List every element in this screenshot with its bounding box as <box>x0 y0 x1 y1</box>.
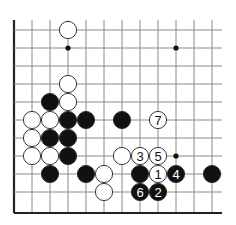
white-stone-3: 3 <box>131 147 148 164</box>
star-point-icon <box>173 153 178 158</box>
black-stone <box>203 165 220 182</box>
white-stone-7: 7 <box>149 111 166 128</box>
white-stone <box>95 165 112 182</box>
white-stone <box>113 147 130 164</box>
black-stone-2: 2 <box>149 183 166 200</box>
white-stone <box>41 111 58 128</box>
white-stone <box>59 75 76 92</box>
move-number-label: 3 <box>136 149 143 164</box>
star-point-icon <box>65 45 70 50</box>
black-stone <box>41 165 58 182</box>
black-stone <box>59 111 76 128</box>
white-stone <box>23 129 40 146</box>
white-stone <box>59 93 76 110</box>
move-number-label: 2 <box>154 185 161 200</box>
move-number-label: 4 <box>172 167 179 182</box>
black-stone <box>113 111 130 128</box>
black-stone <box>77 165 94 182</box>
star-point-icon <box>173 45 178 50</box>
go-board-diagram: 7351462 <box>0 0 236 225</box>
move-number-label: 5 <box>154 149 161 164</box>
move-number-label: 6 <box>136 185 143 200</box>
white-stone <box>23 111 40 128</box>
black-stone <box>41 93 58 110</box>
black-stone <box>41 129 58 146</box>
move-number-label: 7 <box>154 113 161 128</box>
white-stone-1: 1 <box>149 165 166 182</box>
move-number-label: 1 <box>154 167 161 182</box>
white-stone <box>95 183 112 200</box>
black-stone <box>131 165 148 182</box>
black-stone <box>59 147 76 164</box>
white-stone <box>23 147 40 164</box>
black-stone <box>59 129 76 146</box>
white-stone <box>41 147 58 164</box>
black-stone <box>77 111 94 128</box>
black-stone-4: 4 <box>167 165 184 182</box>
white-stone-5: 5 <box>149 147 166 164</box>
white-stone <box>59 21 76 38</box>
black-stone-6: 6 <box>131 183 148 200</box>
